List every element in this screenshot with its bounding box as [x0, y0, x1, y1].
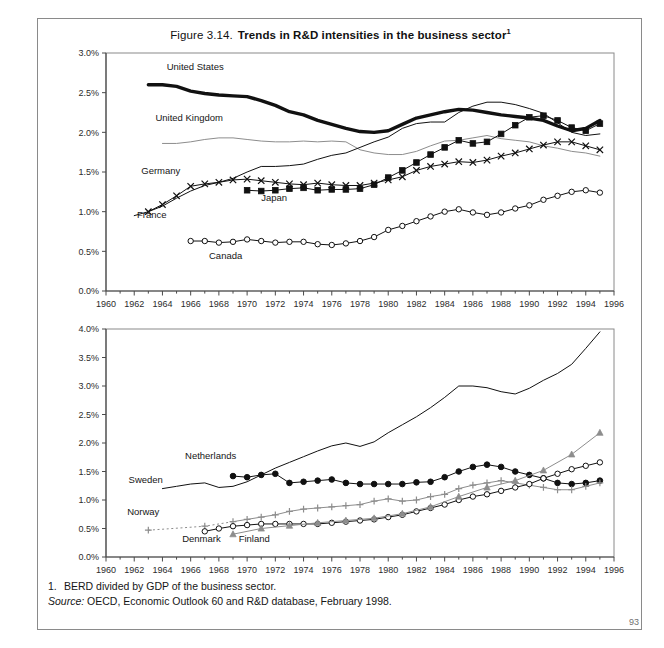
x-tick-label: 1970 [237, 299, 257, 309]
y-tick-label: 0.0% [78, 286, 99, 296]
series-united-kingdom [162, 136, 599, 157]
x-tick-label: 1970 [237, 565, 257, 575]
x-tick-label: 1990 [519, 565, 539, 575]
series-sweden [162, 332, 599, 489]
y-tick-label: 1.5% [78, 467, 99, 477]
y-tick-label: 0.5% [78, 247, 99, 257]
x-tick-label: 1960 [96, 565, 116, 575]
y-tick-label: 3.5% [78, 353, 99, 363]
x-tick-label: 1992 [548, 299, 568, 309]
chart-top-panel: 0.0%0.5%1.0%1.5%2.0%2.5%3.0%196019621964… [38, 41, 643, 319]
series-label-sweden: Sweden [129, 474, 163, 485]
x-tick-label: 1966 [181, 299, 201, 309]
series-japan [244, 113, 602, 194]
y-tick-label: 2.0% [78, 128, 99, 138]
x-tick-label: 1996 [604, 299, 624, 309]
x-tick-label: 1996 [604, 565, 624, 575]
x-tick-label: 1984 [435, 565, 455, 575]
x-tick-label: 1984 [435, 299, 455, 309]
x-tick-label: 1982 [406, 565, 426, 575]
x-tick-label: 1960 [96, 299, 116, 309]
x-tick-label: 1994 [576, 299, 596, 309]
x-tick-label: 1978 [350, 299, 370, 309]
page-number: 93 [629, 617, 639, 627]
x-tick-label: 1986 [463, 565, 483, 575]
x-tick-label: 1968 [209, 565, 229, 575]
source-label: Source: [48, 595, 84, 607]
y-tick-label: 1.0% [78, 207, 99, 217]
y-tick-label: 4.0% [78, 324, 99, 334]
y-tick-label: 2.0% [78, 438, 99, 448]
y-tick-label: 2.5% [78, 410, 99, 420]
footnote-1: 1.BERD divided by GDP of the business se… [48, 579, 643, 594]
x-tick-label: 1988 [491, 565, 511, 575]
x-tick-label: 1962 [124, 299, 144, 309]
x-tick-label: 1972 [265, 565, 285, 575]
x-tick-label: 1972 [265, 299, 285, 309]
x-tick-label: 1968 [209, 299, 229, 309]
series-netherlands [230, 462, 602, 487]
source-line: Source: OECD, Economic Outlook 60 and R&… [48, 594, 643, 609]
y-tick-label: 0.0% [78, 552, 99, 562]
x-tick-label: 1974 [294, 299, 314, 309]
figure-frame: Figure 3.14.Trends in R&D intensities in… [37, 18, 642, 630]
x-tick-label: 1976 [322, 565, 342, 575]
y-tick-label: 3.0% [78, 381, 99, 391]
series-label-united-states: United States [167, 61, 224, 72]
y-tick-label: 2.5% [78, 88, 99, 98]
x-tick-label: 1994 [576, 565, 596, 575]
series-label-france: France [137, 209, 167, 220]
figure-title: Figure 3.14.Trends in R&D intensities in… [38, 27, 643, 41]
figure-number: Figure 3.14. [170, 29, 233, 41]
x-tick-label: 1974 [294, 565, 314, 575]
y-tick-label: 1.0% [78, 495, 99, 505]
x-tick-label: 1982 [406, 299, 426, 309]
footnote-text: BERD divided by GDP of the business sect… [64, 580, 276, 592]
x-tick-label: 1978 [350, 565, 370, 575]
series-united-states [148, 85, 600, 133]
x-tick-label: 1964 [152, 299, 172, 309]
series-label-netherlands: Netherlands [185, 450, 236, 461]
figure-title-superscript: 1 [507, 27, 511, 36]
x-tick-label: 1988 [491, 299, 511, 309]
series-label-united-kingdom: United Kingdom [155, 112, 223, 123]
series-label-denmark: Denmark [182, 533, 221, 544]
footnote-marker: 1. [48, 579, 64, 594]
source-text: OECD, Economic Outlook 60 and R&D databa… [87, 595, 392, 607]
x-tick-label: 1966 [181, 565, 201, 575]
series-label-finland: Finland [239, 533, 270, 544]
x-tick-label: 1962 [124, 565, 144, 575]
footnotes: 1.BERD divided by GDP of the business se… [38, 579, 643, 609]
x-tick-label: 1976 [322, 299, 342, 309]
series-label-germany: Germany [141, 165, 180, 176]
series-label-canada: Canada [209, 250, 243, 261]
x-tick-label: 1992 [548, 565, 568, 575]
chart-bottom-panel: 0.0%0.5%1.0%1.5%2.0%2.5%3.0%3.5%4.0%1960… [38, 319, 643, 581]
series-label-japan: Japan [261, 192, 287, 203]
y-tick-label: 1.5% [78, 167, 99, 177]
x-tick-label: 1980 [378, 299, 398, 309]
y-tick-label: 3.0% [78, 48, 99, 58]
series-label-norway: Norway [127, 506, 159, 517]
y-tick-label: 0.5% [78, 524, 99, 534]
figure-title-text: Trends in R&D intensities in the busines… [238, 29, 507, 41]
x-tick-label: 1990 [519, 299, 539, 309]
x-tick-label: 1980 [378, 565, 398, 575]
series-canada [188, 188, 603, 248]
x-tick-label: 1986 [463, 299, 483, 309]
x-tick-label: 1964 [152, 565, 172, 575]
